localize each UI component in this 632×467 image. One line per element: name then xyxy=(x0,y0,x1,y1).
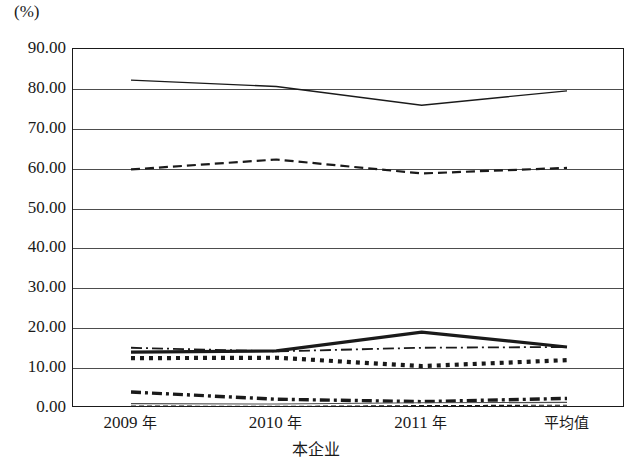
series-line-series-6 xyxy=(131,392,567,402)
chart-container: (%) 90.0080.0070.0060.0050.0040.0030.002… xyxy=(0,0,632,467)
plot-area xyxy=(72,48,624,407)
x-axis-tick-0: 2009 年 xyxy=(103,412,156,434)
y-axis-tick-80.00: 80.00 xyxy=(2,79,66,96)
y-axis-tick-10.00: 10.00 xyxy=(2,358,66,375)
x-axis-tick-1: 2010 年 xyxy=(249,412,302,434)
y-axis-tick-40.00: 40.00 xyxy=(2,238,66,255)
y-axis-tick-20.00: 20.00 xyxy=(2,318,66,335)
y-axis-tick-labels: 90.0080.0070.0060.0050.0040.0030.0020.00… xyxy=(0,0,66,467)
series-lines xyxy=(73,49,625,408)
series-line-series-7 xyxy=(131,402,567,404)
y-axis-tick-30.00: 30.00 xyxy=(2,278,66,295)
y-axis-tick-70.00: 70.00 xyxy=(2,119,66,136)
series-line-series-1 xyxy=(131,80,567,105)
series-line-series-2 xyxy=(131,159,567,173)
x-axis-tick-3: 平均值 xyxy=(544,412,589,434)
x-axis-tick-labels: 2009 年2010 年2011 年平均值 xyxy=(72,412,624,438)
series-line-series-8 xyxy=(131,405,567,406)
y-axis-tick-60.00: 60.00 xyxy=(2,159,66,176)
y-axis-tick-50.00: 50.00 xyxy=(2,199,66,216)
y-axis-tick-0.00: 0.00 xyxy=(2,398,66,415)
series-line-series-5 xyxy=(131,358,567,366)
x-axis-tick-2: 2011 年 xyxy=(394,412,447,434)
x-axis-title: 本企业 xyxy=(0,440,632,460)
y-axis-tick-90.00: 90.00 xyxy=(2,39,66,56)
